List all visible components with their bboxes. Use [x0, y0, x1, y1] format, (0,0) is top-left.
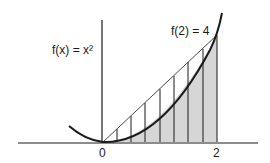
function-label: f(x) = x² — [52, 44, 93, 56]
point-label: f(2) = 4 — [171, 25, 209, 37]
parabola-area-diagram — [0, 0, 270, 163]
x-tick-0: 0 — [99, 147, 106, 159]
x-tick-2: 2 — [213, 147, 220, 159]
diagram-canvas: f(x) = x² f(2) = 4 0 2 — [0, 0, 270, 163]
